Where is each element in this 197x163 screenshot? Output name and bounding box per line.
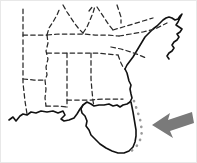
state-border-arkansas-south xyxy=(23,79,45,80)
arrow-glyph xyxy=(152,112,194,138)
state-border-alabama-georgia xyxy=(91,53,94,106)
state-border-kentucky-north xyxy=(47,8,60,35)
state-border-mississippi-river xyxy=(45,35,48,106)
state-border-west-virginia-east xyxy=(97,7,113,30)
state-border-maryland-line xyxy=(113,18,153,30)
map-canvas xyxy=(1,1,197,163)
state-border-west-vertical xyxy=(23,9,27,114)
east-coast-arrow xyxy=(152,112,194,138)
state-border-appalachian-spur xyxy=(89,6,93,11)
state-border-tennessee-north xyxy=(47,34,119,36)
state-borders-group xyxy=(23,5,167,114)
map-figure: Southeastern United States outline map H… xyxy=(0,0,197,163)
florida-west-and-south-coast xyxy=(81,102,136,153)
atlantic-coastline-georgia-carolinas xyxy=(125,14,182,69)
state-border-virginia-north-carolina xyxy=(119,23,167,36)
state-border-ohio-river xyxy=(63,5,83,33)
state-border-louisiana-east xyxy=(46,106,67,107)
state-border-north-spur xyxy=(117,5,121,23)
florida-peninsula-coastline xyxy=(125,69,132,102)
state-border-tennessee-south xyxy=(47,53,118,55)
state-border-georgia-south-carolina xyxy=(118,55,124,69)
state-border-carolinas xyxy=(111,47,146,58)
state-border-georgia-florida xyxy=(67,99,123,100)
